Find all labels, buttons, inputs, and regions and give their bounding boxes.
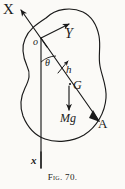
label-angle-theta: θ	[45, 58, 50, 68]
label-origin: o	[33, 37, 38, 47]
line-o-to-a	[41, 38, 99, 121]
label-center-of-gravity: G	[73, 79, 82, 91]
label-weight-force: Mg	[60, 112, 76, 124]
label-axis-x-upper: X	[3, 2, 14, 17]
label-axis-x-lower: x	[31, 155, 37, 166]
figure-caption: Fig. 70.	[0, 172, 125, 182]
label-distance-h: h	[66, 64, 72, 75]
figure-drawing	[0, 0, 125, 189]
label-point-a: A	[98, 117, 107, 130]
label-axis-y: Y	[65, 27, 73, 41]
point-g-marker	[69, 83, 71, 85]
figure-70-container: X Y o θ h G Mg A x Fig. 70.	[0, 0, 125, 189]
